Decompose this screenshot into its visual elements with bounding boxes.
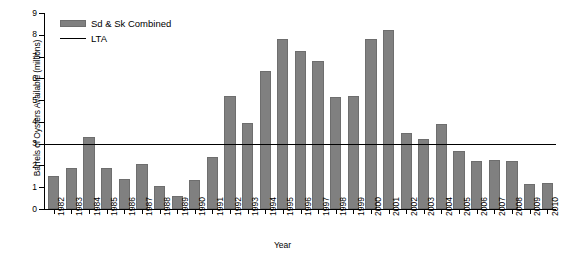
chart-legend: Sd & Sk Combined LTA xyxy=(60,17,171,47)
y-axis-tick-label: 9 xyxy=(32,8,37,18)
y-axis-tick-label: 0 xyxy=(32,204,37,214)
x-axis-tick xyxy=(336,210,337,214)
bar-slot xyxy=(380,13,398,209)
x-axis-tick-label: 1987 xyxy=(145,197,154,216)
x-axis-tick-label: 1990 xyxy=(198,197,207,216)
bar xyxy=(348,96,359,209)
bar-slot xyxy=(521,13,539,209)
bar-slot xyxy=(292,13,310,209)
x-axis-tick xyxy=(265,210,266,214)
bar xyxy=(383,30,394,209)
legend-item-lta: LTA xyxy=(60,32,171,45)
bar-slot xyxy=(415,13,433,209)
x-axis-tick xyxy=(212,210,213,214)
y-axis-tick-label: 5 xyxy=(32,95,37,105)
bar-slot xyxy=(486,13,504,209)
legend-line-swatch-icon xyxy=(60,38,86,39)
x-axis-tick-label: 1996 xyxy=(304,197,313,216)
bar-slot xyxy=(221,13,239,209)
x-axis-tick xyxy=(353,210,354,214)
legend-bar-swatch-icon xyxy=(60,20,86,27)
lta-reference-line xyxy=(45,144,556,145)
legend-label-bars: Sd & Sk Combined xyxy=(91,18,171,29)
y-axis-tick-label: 1 xyxy=(32,182,37,192)
x-axis-tick-label: 1982 xyxy=(57,197,66,216)
x-axis-tick-label: 2001 xyxy=(392,197,401,216)
x-axis-tick-label: 1985 xyxy=(110,197,119,216)
x-axis-tick-label: 1998 xyxy=(339,197,348,216)
y-axis-tick-label: 3 xyxy=(32,138,37,148)
bar-slot xyxy=(186,13,204,209)
oyster-availability-bar-chart: Barrels of Oysters Available (millions) … xyxy=(0,0,565,255)
x-axis-title: Year xyxy=(0,240,565,250)
x-axis-tick xyxy=(406,210,407,214)
x-axis-tick xyxy=(459,210,460,214)
x-axis-tick-label: 1997 xyxy=(322,197,331,216)
x-axis-tick xyxy=(441,210,442,214)
bar-slot xyxy=(239,13,257,209)
y-axis-tick: 6 xyxy=(39,78,44,79)
bar-slot xyxy=(503,13,521,209)
bar-slot xyxy=(468,13,486,209)
x-axis-tick xyxy=(424,210,425,214)
bar xyxy=(224,96,235,209)
bar-slot xyxy=(345,13,363,209)
x-axis-tick xyxy=(107,210,108,214)
bar xyxy=(260,71,271,209)
x-axis-tick xyxy=(371,210,372,214)
x-axis-tick xyxy=(89,210,90,214)
x-axis-tick xyxy=(124,210,125,214)
x-axis-tick xyxy=(160,210,161,214)
bar-slot xyxy=(362,13,380,209)
bar xyxy=(295,51,306,209)
x-axis-tick-label: 2005 xyxy=(463,197,472,216)
x-axis-tick xyxy=(177,210,178,214)
x-axis-tick xyxy=(283,210,284,214)
x-axis-tick-label: 1983 xyxy=(75,197,84,216)
y-axis-tick-label: 4 xyxy=(32,116,37,126)
x-axis-tick-label: 2002 xyxy=(410,197,419,216)
x-axis-tick-label: 2000 xyxy=(374,197,383,216)
y-axis-tick-label: 7 xyxy=(32,51,37,61)
x-axis-tick xyxy=(248,210,249,214)
x-axis-tick-label: 1988 xyxy=(163,197,172,216)
y-axis-tick: 1 xyxy=(39,187,44,188)
y-axis-tick-label: 2 xyxy=(32,160,37,170)
y-axis-tick: 3 xyxy=(39,144,44,145)
bar xyxy=(330,97,341,209)
x-axis-tick-label: 1989 xyxy=(181,197,190,216)
bar-slot xyxy=(397,13,415,209)
x-axis-tick xyxy=(494,210,495,214)
bar-slot xyxy=(204,13,222,209)
x-axis-tick xyxy=(71,210,72,214)
bar-slot xyxy=(538,13,556,209)
x-axis-tick-label: 1984 xyxy=(93,197,102,216)
y-axis-tick: 8 xyxy=(39,35,44,36)
x-axis-tick-label: 1992 xyxy=(234,197,243,216)
x-axis-tick xyxy=(530,210,531,214)
x-axis-tick xyxy=(195,210,196,214)
x-axis-tick-label: 1994 xyxy=(269,197,278,216)
legend-item-bars: Sd & Sk Combined xyxy=(60,17,171,30)
bar-slot xyxy=(256,13,274,209)
y-axis-tick: 0 xyxy=(39,209,44,210)
x-axis-tick xyxy=(142,210,143,214)
x-axis-tick-label: 1991 xyxy=(216,197,225,216)
bar xyxy=(312,61,323,209)
x-axis-tick-label: 1993 xyxy=(251,197,260,216)
x-axis-tick-label: 1999 xyxy=(357,197,366,216)
y-axis-tick: 9 xyxy=(39,13,44,14)
y-axis-tick-label: 8 xyxy=(32,29,37,39)
x-axis-tick xyxy=(389,210,390,214)
bar-slot xyxy=(433,13,451,209)
y-axis-tick-label: 6 xyxy=(32,73,37,83)
x-axis-tick xyxy=(301,210,302,214)
bar-slot xyxy=(309,13,327,209)
x-axis-tick-label: 2006 xyxy=(480,197,489,216)
legend-label-lta: LTA xyxy=(91,33,107,44)
x-axis-tick xyxy=(54,210,55,214)
x-axis-tick-label: 2007 xyxy=(498,197,507,216)
bar-slot xyxy=(327,13,345,209)
bar-slot xyxy=(274,13,292,209)
x-axis-tick-label: 2003 xyxy=(427,197,436,216)
